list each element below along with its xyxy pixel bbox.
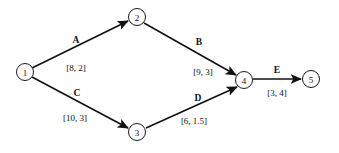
edge-weight-b: [9, 3] <box>193 67 213 77</box>
node-5: 5 <box>303 71 320 88</box>
edge-label-b: B <box>196 37 203 47</box>
edge-a-line <box>32 21 128 68</box>
edge-label-a: A <box>73 35 80 45</box>
edge-label-c: C <box>74 88 81 98</box>
edge-label-d: D <box>195 93 202 103</box>
edge-weight-e: [3, 4] <box>267 88 287 98</box>
node-1-label: 1 <box>23 68 28 78</box>
node-4-label: 4 <box>242 76 247 86</box>
node-4: 4 <box>236 72 253 89</box>
edge-weight-c: [10, 3] <box>63 113 87 123</box>
node-3: 3 <box>129 124 146 141</box>
node-1: 1 <box>17 64 34 81</box>
edge-label-e: E <box>274 65 280 75</box>
network-graph-canvas: 12345 A[8, 2]B[9, 3]C[10, 3]D[6, 1.5]E[3… <box>0 0 339 153</box>
edge-weight-d: [6, 1.5] <box>181 116 207 126</box>
node-3-label: 3 <box>135 128 140 138</box>
edge-labels-layer: A[8, 2]B[9, 3]C[10, 3]D[6, 1.5]E[3, 4] <box>63 35 287 126</box>
network-diagram: 12345 A[8, 2]B[9, 3]C[10, 3]D[6, 1.5]E[3… <box>0 0 339 153</box>
node-5-label: 5 <box>309 75 314 85</box>
node-2: 2 <box>129 9 146 26</box>
edge-b-line <box>144 23 236 75</box>
node-2-label: 2 <box>135 13 140 23</box>
edge-weight-a: [8, 2] <box>66 63 86 73</box>
